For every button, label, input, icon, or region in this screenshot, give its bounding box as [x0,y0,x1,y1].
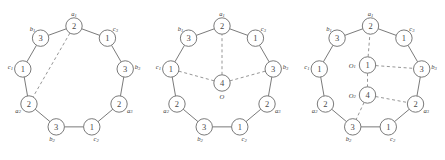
ring-edge [48,29,66,36]
node-label-c2: c2 [390,135,396,142]
diagram-2: 2a11c33b32a31c23b22a21c13b14O [148,0,296,160]
ring-edge [417,77,420,96]
ring-node-c1[interactable]: 1 [311,61,327,77]
ring-edge [395,109,410,121]
node-value: 2 [220,21,224,31]
node-label-a2: a2 [163,107,169,114]
node-label-c1: c1 [156,63,161,70]
diagram-2-canvas: 2a11c33b32a31c23b22a21c13b14O [148,0,296,160]
ring-node-a3[interactable]: 2 [111,96,127,112]
diagram-1: 2a11c33b32a31c23b22a21c13b1 [0,0,148,160]
dashed-edge [376,97,408,103]
ring-node-b3[interactable]: 3 [265,61,281,77]
node-label-c3: c3 [261,25,267,32]
node-value: 1 [365,60,369,70]
ring-node-a2[interactable]: 2 [317,96,333,112]
ring-edge [345,29,363,36]
center-label-O: O [220,93,225,100]
dashed-edge [376,66,414,69]
ring-edge [268,77,271,96]
ring-edge [230,29,248,36]
node-value: 3 [420,64,424,74]
node-label-b2: b2 [49,135,55,142]
node-label-a1: a1 [219,10,225,17]
ring-node-c3[interactable]: 1 [396,30,412,46]
ring-node-b2[interactable]: 3 [48,119,64,135]
ring-node-b3[interactable]: 3 [414,61,430,77]
dashed-edge [356,102,364,119]
ring-node-a2[interactable]: 2 [21,96,37,112]
ring-node-a3[interactable]: 2 [407,96,423,112]
node-value: 3 [202,122,206,132]
center-label-O1: O1 [349,62,356,69]
node-value: 3 [351,122,355,132]
ring-node-c2[interactable]: 1 [84,119,100,135]
ring-node-c1[interactable]: 1 [163,61,179,77]
node-value: 2 [175,99,179,109]
node-value: 1 [169,64,173,74]
ring-node-a3[interactable]: 2 [259,96,275,112]
ring-edge [378,29,396,36]
node-value: 3 [271,64,275,74]
node-value: 1 [386,122,390,132]
dashed-edges [356,34,413,119]
ring-edge [246,109,261,121]
node-label-a2: a2 [15,107,21,114]
ring-node-c3[interactable]: 1 [247,30,263,46]
node-label-c2: c2 [93,135,99,142]
node-label-c1: c1 [8,63,13,70]
center-node-O1[interactable]: 1 [359,57,375,73]
ring-node-c3[interactable]: 1 [99,30,115,46]
node-label-c2: c2 [241,135,247,142]
node-value: 3 [123,64,127,74]
node-value: 2 [72,21,76,31]
node-value: 3 [186,33,190,43]
ring-node-a1[interactable]: 2 [362,18,378,34]
ring-node-a2[interactable]: 2 [169,96,185,112]
node-value: 3 [38,33,42,43]
ring-node-a1[interactable]: 2 [214,18,230,34]
dashed-edge [368,34,370,57]
node-value: 1 [253,33,257,43]
node-label-a2: a2 [312,107,318,114]
ring-edge [24,77,27,96]
node-value: 1 [238,122,242,132]
ring-node-c2[interactable]: 1 [232,119,248,135]
ring-edge [323,45,333,62]
diagram-1-canvas: 2a11c33b32a31c23b22a21c13b1 [0,0,148,160]
node-label-b3: b3 [283,63,289,70]
node-value: 2 [265,99,269,109]
ring-node-c1[interactable]: 1 [15,61,31,77]
ring-edge [196,29,214,36]
ring-node-b3[interactable]: 3 [117,61,133,77]
node-value: 2 [117,99,121,109]
ring-node-a1[interactable]: 2 [66,18,82,34]
center-node-O[interactable]: 4 [214,75,230,91]
ring-edge [172,77,175,96]
ring-edge [112,45,122,62]
ring-node-b2[interactable]: 3 [196,119,212,135]
ring-node-c2[interactable]: 1 [380,119,396,135]
node-label-b1: b1 [326,25,332,32]
node-label-c3: c3 [113,25,119,32]
center-label-O2: O2 [349,92,357,99]
ring-edge [260,45,270,62]
ring-edge [183,109,198,121]
ring-edge [408,45,418,62]
ring-edge [332,109,347,121]
node-value: 1 [105,33,109,43]
node-label-a3: a3 [424,107,430,114]
node-value: 1 [90,122,94,132]
ring-node-b2[interactable]: 3 [345,119,361,135]
node-label-a3: a3 [275,107,281,114]
node-label-b3: b3 [135,63,141,70]
figure-row: 2a11c33b32a31c23b22a21c13b12a11c33b32a31… [0,0,445,160]
diagram-3-canvas: 2a11c33b32a31c23b22a21c13b11O14O2 [296,0,445,160]
dashed-edge [230,71,265,81]
node-value: 2 [413,99,417,109]
node-value: 2 [368,21,372,31]
center-node-O2[interactable]: 4 [359,87,375,103]
ring-edge [120,77,123,96]
node-label-b2: b2 [346,135,352,142]
node-label-b1: b1 [178,25,184,32]
